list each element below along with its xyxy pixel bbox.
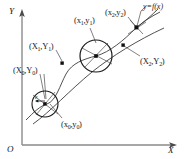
label-x0y0-sub1: 0 (68, 124, 71, 130)
label-X2Y2-sub2: 2 (159, 61, 162, 67)
label-x1y1-close: ) (92, 15, 95, 25)
axes-group (19, 9, 177, 148)
origin-label: O (7, 145, 14, 154)
label-x0y0: (x0,y0) (61, 120, 82, 129)
label-X0Y0-sub1: 0 (22, 70, 25, 76)
leader-yfx (137, 11, 141, 26)
label-X0Y0-mid: ,Y (24, 65, 32, 75)
epsilon-label: ε (35, 94, 38, 101)
y-axis-label: Y (9, 7, 14, 16)
label-X2Y2-close: ) (162, 56, 165, 66)
label-x1y1: (x1,y1) (74, 16, 95, 25)
label-X0Y0: (X0,Y0) (13, 66, 38, 75)
point-marker-X1Y1 (60, 61, 63, 64)
point-marker-X2Y2 (121, 43, 124, 46)
label-x2y2: (x2,y2) (105, 8, 126, 17)
label-X2Y2-sub1: 2 (149, 61, 152, 67)
figure-container: Y X O y=f(x) (x2,y2) (x1,y1) (X1,Y1) (X2… (0, 0, 184, 159)
point-marker-x1y1 (94, 54, 98, 58)
label-x0y0-close: ) (79, 119, 82, 129)
curves-group (26, 9, 164, 124)
label-x2y2-open: (x (105, 7, 112, 17)
label-x1y1-sub1: 1 (81, 20, 84, 26)
label-X0Y0-close: ) (35, 65, 38, 75)
label-X2Y2-mid: ,Y (151, 56, 159, 66)
label-X1Y1: (X1,Y1) (29, 42, 54, 51)
point-marker-x0y0 (43, 102, 46, 105)
label-X1Y1-mid: ,Y (40, 41, 48, 51)
label-x1y1-sub2: 1 (89, 20, 92, 26)
label-X2Y2: (X2,Y2) (140, 57, 165, 66)
label-X1Y1-sub1: 1 (38, 46, 41, 52)
leader-X1Y1 (56, 50, 62, 61)
label-x2y2-sub2: 2 (120, 12, 123, 18)
error-circle-point1 (80, 40, 112, 72)
label-x0y0-open: (x (61, 119, 68, 129)
label-x2y2-close: ) (123, 7, 126, 17)
label-X1Y1-close: ) (51, 41, 54, 51)
label-X0Y0-sub2: 0 (32, 70, 35, 76)
label-X1Y1-sub2: 1 (48, 46, 51, 52)
leader-X2Y2 (124, 46, 140, 56)
label-x2y2-sub1: 2 (112, 12, 115, 18)
label-x0y0-sub2: 0 (76, 124, 79, 130)
x-axis-label: X (168, 146, 174, 155)
label-X2Y2-open: (X (140, 56, 149, 66)
function-curve-label: y=f(x) (143, 3, 163, 11)
label-x1y1-open: (x (74, 15, 81, 25)
label-X0Y0-open: (X (13, 65, 22, 75)
point-marker-x2y2 (134, 25, 138, 29)
label-X1Y1-open: (X (29, 41, 38, 51)
